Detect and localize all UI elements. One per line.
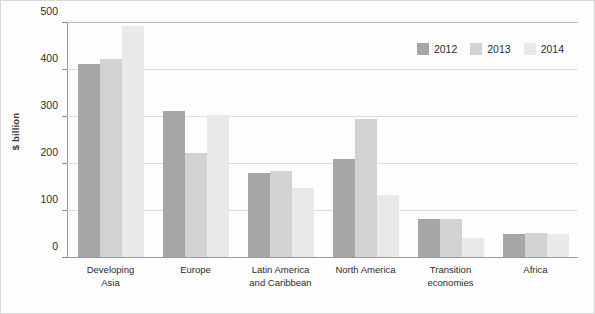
legend-swatch-icon xyxy=(524,43,536,55)
y-tick-label-0: 0 xyxy=(52,240,58,252)
category-label: Transitioneconomies xyxy=(408,264,493,289)
legend-swatch-icon xyxy=(470,43,482,55)
category-label-line: Developing xyxy=(68,264,153,277)
category-label-line: Latin America xyxy=(238,264,323,277)
bar-group xyxy=(238,23,323,257)
bar-2014[interactable] xyxy=(462,238,484,257)
y-axis-title: $ billion xyxy=(7,1,25,261)
y-tick-label-100: 100 xyxy=(40,193,58,205)
category-label: DevelopingAsia xyxy=(68,264,153,289)
bar-2013[interactable] xyxy=(185,153,207,257)
bar-2013[interactable] xyxy=(525,233,547,257)
bar-groups xyxy=(68,23,578,257)
category-label-line: Europe xyxy=(153,264,238,277)
category-label-line: North America xyxy=(323,264,408,277)
y-tick-500 xyxy=(62,22,67,23)
category-label-line: Africa xyxy=(493,264,578,277)
y-tick-label-400: 400 xyxy=(40,52,58,64)
bar-group xyxy=(408,23,493,257)
legend-swatch-icon xyxy=(417,43,429,55)
bar-2013[interactable] xyxy=(440,219,462,257)
legend-label: 2014 xyxy=(541,43,564,55)
bar-2014[interactable] xyxy=(207,115,229,257)
bar-2014[interactable] xyxy=(292,188,314,257)
y-tick-200 xyxy=(62,163,67,164)
y-axis-title-text: $ billion xyxy=(11,112,22,150)
legend-item-2013[interactable]: 2013 xyxy=(470,43,510,55)
y-tick-400 xyxy=(62,69,67,70)
chart-legend: 201220132014 xyxy=(417,43,564,55)
bar-group xyxy=(153,23,238,257)
legend-item-2012[interactable]: 2012 xyxy=(417,43,457,55)
bar-2013[interactable] xyxy=(355,119,377,257)
y-tick-100 xyxy=(62,210,67,211)
y-tick-label-300: 300 xyxy=(40,99,58,111)
bar-2014[interactable] xyxy=(547,234,569,257)
bar-2012[interactable] xyxy=(333,159,355,257)
category-label-line: Asia xyxy=(68,277,153,290)
bar-2013[interactable] xyxy=(270,171,292,257)
bar-group xyxy=(323,23,408,257)
category-label: North America xyxy=(323,264,408,289)
bar-2012[interactable] xyxy=(163,111,185,257)
legend-label: 2012 xyxy=(434,43,457,55)
plot-area: 0100200300400500 xyxy=(67,23,578,258)
bar-chart-figure: $ billion 0100200300400500 DevelopingAsi… xyxy=(0,0,595,314)
bar-group xyxy=(493,23,578,257)
category-label-line: and Caribbean xyxy=(238,277,323,290)
y-tick-label-500: 500 xyxy=(40,5,58,17)
y-tick-0 xyxy=(62,257,67,258)
bar-group xyxy=(68,23,153,257)
category-label-line: Transition xyxy=(408,264,493,277)
bar-2012[interactable] xyxy=(248,173,270,257)
x-axis-line xyxy=(67,257,578,258)
y-tick-label-200: 200 xyxy=(40,146,58,158)
bar-2014[interactable] xyxy=(377,195,399,257)
category-label: Africa xyxy=(493,264,578,289)
bar-2012[interactable] xyxy=(78,64,100,257)
legend-item-2014[interactable]: 2014 xyxy=(524,43,564,55)
bar-2013[interactable] xyxy=(100,59,122,257)
category-label: Europe xyxy=(153,264,238,289)
category-label: Latin Americaand Caribbean xyxy=(238,264,323,289)
bar-2014[interactable] xyxy=(122,26,144,257)
bar-2012[interactable] xyxy=(418,219,440,257)
x-axis-category-labels: DevelopingAsiaEuropeLatin Americaand Car… xyxy=(68,264,578,289)
legend-label: 2013 xyxy=(487,43,510,55)
y-tick-300 xyxy=(62,116,67,117)
category-label-line: economies xyxy=(408,277,493,290)
bar-2012[interactable] xyxy=(503,234,525,257)
